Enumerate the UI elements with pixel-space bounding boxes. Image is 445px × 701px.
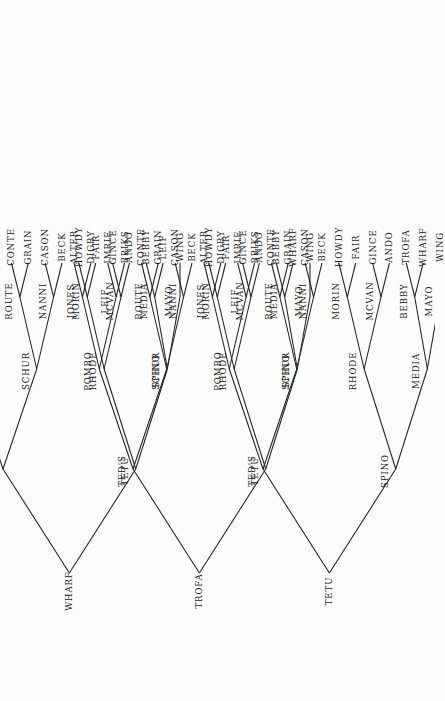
branch-line [263,469,329,573]
internal-node-label: NANNI [38,283,48,320]
internal-node-label: MAYO [424,286,434,317]
branch-line [0,369,3,469]
tip-label: CASON [40,228,50,266]
tip-label: IMRIE [103,231,113,264]
internal-node-label: JONES [196,284,206,319]
branch-line [246,263,254,297]
internal-node-label: MEDIA [411,353,421,389]
tip-label: TROFA [401,229,411,264]
branch-line [251,263,259,297]
tip-label: ANDO [384,231,394,262]
internal-node-label: BEBBY [399,283,409,318]
internal-node-label: MCVAN [365,281,375,320]
internal-node-label: POMBO [213,351,223,391]
tip-label: DIGBY [216,230,226,264]
branch-line [381,263,389,297]
internal-node-label: ROUTE [134,282,144,319]
branch-line [54,263,62,297]
internal-node-label: TED'S [247,455,257,487]
branch-line [184,263,192,297]
internal-node-label: SCHUR [151,352,161,390]
branch-line [82,263,90,297]
tip-label: GINCE [368,229,378,264]
branch-line [155,263,163,297]
tip-label: GRAIN [153,230,163,265]
internal-node-label: SPINO [380,454,390,488]
internal-node-label: LEIF [100,289,110,314]
internal-node-label: JONES [66,284,76,319]
branch-line [104,369,136,469]
tree-root-label: WHARF [64,571,74,610]
branch-line [314,263,322,297]
branch-line [87,263,95,297]
branch-line [217,263,225,297]
tip-label: CONTE [6,228,16,266]
branch-line [212,263,220,297]
branch-line [285,263,293,297]
tip-label: CASON [300,228,310,266]
branch-line [133,469,199,573]
tip-label: WHARF [418,227,428,266]
branch-line [229,369,263,469]
tip-label: HOWDY [334,227,344,267]
tip-label: BECK [57,232,67,261]
internal-node-label: TED'S [117,455,127,487]
tip-label: ALTER [69,230,79,264]
internal-node-label: ROUTE [264,282,274,319]
branch-line [347,263,355,297]
branch-line [3,469,69,573]
tip-label: FAIR [351,235,361,260]
tip-label: ALTER [199,230,209,264]
internal-node-label: MORIN [331,282,341,320]
branch-line [415,263,423,297]
internal-node-label: LEIF [230,289,240,314]
tree-root-label: TROFA [194,573,204,608]
branch-line [150,263,158,297]
branch-line [280,263,288,297]
tip-label: CASON [170,228,180,266]
tree-root-label: TETU [324,577,334,606]
branch-line [234,369,266,469]
internal-node-label: SCHUR [21,352,31,390]
branch-line [116,263,124,297]
internal-node-label: NANNI [298,283,308,320]
internal-node-label: RHODE [348,352,358,391]
tip-label: WING [435,232,445,262]
branch-line [20,263,28,297]
tip-label: GRAIN [283,230,293,265]
internal-node-label: ROUTE [4,282,14,319]
branch-line [99,369,133,469]
tip-label: BRIKS [250,231,260,264]
tip-label: CONTE [266,228,276,266]
tip-label: BECK [317,232,327,261]
internal-node-label: POMBO [83,351,93,391]
tip-label: IMRIE [233,231,243,264]
tip-label: CONTE [136,228,146,266]
tip-label: BECK [187,232,197,261]
branch-line [121,263,129,297]
tip-label: BRIKS [120,231,130,264]
internal-node-label: SCHUR [281,352,291,390]
tip-label: DIGBY [86,230,96,264]
internal-node-label: NANNI [168,283,178,320]
tip-label: GRAIN [23,230,33,265]
